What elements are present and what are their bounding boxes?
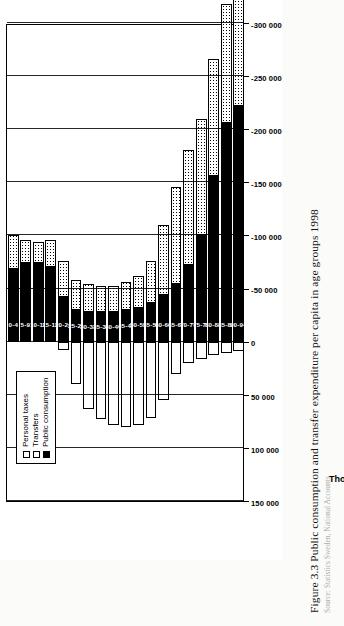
bar-segment-transfers	[183, 150, 194, 265]
axis-tick-label: 150 000	[251, 499, 279, 508]
bar-segment-personal-taxes	[208, 342, 219, 356]
bar-segment-public-consumption	[71, 310, 82, 342]
figure-caption-text: Figure 3.3 Public consumption and transf…	[308, 13, 320, 613]
bar-segment-personal-taxes	[133, 342, 144, 425]
bar-row: 30-34	[83, 25, 94, 501]
axis-tick	[244, 395, 249, 396]
bar-segment-transfers	[71, 280, 82, 310]
bar-segment-personal-taxes	[196, 342, 207, 359]
bar-segment-public-consumption	[96, 312, 107, 342]
axis-tick	[244, 235, 249, 236]
legend-label-transfers: Transfers	[32, 414, 40, 448]
axis-tick	[244, 129, 249, 130]
bar-segment-public-consumption	[233, 106, 244, 342]
bar-row: 50-54	[133, 25, 144, 501]
gridline	[7, 22, 243, 23]
axis-tick-label: 50 000	[251, 393, 275, 402]
bar-segment-transfers	[133, 276, 144, 308]
bar-segment-public-consumption	[45, 267, 56, 341]
axis-tick	[244, 289, 249, 290]
bar-segment-public-consumption	[208, 176, 219, 342]
bar-segment-public-consumption	[146, 303, 157, 341]
scanned-page: 0-45-910-1415-1920-2425-2930-3435-3940-4…	[0, 0, 344, 626]
bar-segment-personal-taxes	[233, 342, 244, 352]
bar-row: 75-79	[196, 25, 207, 501]
gridline	[7, 181, 243, 182]
axis-tick-label: -250 000	[251, 74, 282, 83]
bar-segment-personal-taxes	[221, 342, 232, 354]
bar-segment-public-consumption	[121, 310, 132, 342]
bar-segment-personal-taxes	[71, 342, 82, 384]
gridline	[7, 234, 243, 235]
value-axis: Thousands of SEK 150 000100 00050 0000-5…	[244, 24, 280, 502]
bar-segment-transfers	[58, 261, 69, 297]
axis-tick	[244, 342, 249, 343]
bar-segment-public-consumption	[8, 269, 19, 341]
gridline	[7, 341, 243, 342]
axis-tick-label: -150 000	[251, 180, 282, 189]
bar-segment-transfers	[96, 286, 107, 311]
bar-row: 85-89	[221, 25, 232, 501]
bar-row: 40-44	[108, 25, 119, 501]
bar-segment-public-consumption	[133, 308, 144, 342]
bar-segment-personal-taxes	[58, 342, 69, 350]
bar-row: 70-74	[183, 25, 194, 501]
bar-segment-personal-taxes	[96, 342, 107, 420]
axis-tick-label: -100 000	[251, 233, 282, 242]
axis-tick-label: 0	[251, 339, 255, 348]
legend-item: Personal taxes	[21, 378, 31, 458]
bar-segment-transfers	[121, 282, 132, 310]
legend-item: Public consumption	[41, 378, 51, 458]
bar-segment-personal-taxes	[121, 342, 132, 427]
gridline	[7, 75, 243, 76]
chart-rotation-wrapper: 0-45-910-1415-1920-2425-2930-3435-3940-4…	[0, 0, 282, 560]
gridline	[7, 288, 243, 289]
figure-caption-source: Source: Statistics Sweden, National Acco…	[323, 13, 332, 613]
axis-tick	[244, 182, 249, 183]
axis-tick-label: -50 000	[251, 286, 277, 295]
gridline	[7, 500, 243, 501]
bar-segment-personal-taxes	[158, 342, 169, 400]
bar-row: 20-24	[58, 25, 69, 501]
bar-segment-personal-taxes	[171, 342, 182, 374]
bar-row: 25-29	[71, 25, 82, 501]
figure-caption: Figure 3.3 Public consumption and transf…	[302, 0, 338, 626]
axis-tick-label: -200 000	[251, 127, 282, 136]
bar-segment-public-consumption	[196, 235, 207, 341]
bar-segment-transfers	[45, 240, 56, 268]
chart-legend: Personal taxes Transfers Public consumpt…	[16, 371, 56, 464]
legend-swatch-public-consumption	[43, 451, 50, 458]
bar-row: 80-84	[208, 25, 219, 501]
bar-segment-public-consumption	[171, 284, 182, 341]
axis-tick-label: -300 000	[251, 21, 282, 30]
bar-segment-public-consumption	[58, 297, 69, 342]
bar-segment-public-consumption	[221, 123, 232, 342]
bar-row: 35-39	[96, 25, 107, 501]
bar-segment-personal-taxes	[108, 342, 119, 425]
bar-segment-personal-taxes	[83, 342, 94, 409]
bar-segment-public-consumption	[108, 312, 119, 342]
legend-label-personal-taxes: Personal taxes	[22, 394, 30, 447]
bar-segment-personal-taxes	[183, 342, 194, 363]
axis-tick	[244, 501, 249, 502]
bar-segment-public-consumption	[33, 263, 44, 342]
bar-segment-transfers	[208, 59, 219, 176]
bar-segment-transfers	[20, 240, 31, 263]
bar-segment-public-consumption	[158, 295, 169, 342]
bar-segment-public-consumption	[183, 265, 194, 341]
axis-tick	[244, 448, 249, 449]
bar-row: 55-59	[146, 25, 157, 501]
bar-segment-transfers	[233, 0, 244, 106]
bar-row: 45-49	[121, 25, 132, 501]
legend-item: Transfers	[31, 378, 41, 458]
bar-row: 65-69	[171, 25, 182, 501]
legend-swatch-transfers	[33, 451, 40, 458]
chart-rotated-container: 0-45-910-1415-1920-2425-2930-3435-3940-4…	[0, 0, 282, 560]
legend-label-public-consumption: Public consumption	[42, 378, 50, 447]
gridline	[7, 128, 243, 129]
legend-swatch-personal-taxes	[23, 451, 30, 458]
bar-segment-transfers	[108, 286, 119, 311]
bar-segment-transfers	[8, 235, 19, 269]
axis-tick	[244, 23, 249, 24]
bar-segment-public-consumption	[83, 312, 94, 342]
